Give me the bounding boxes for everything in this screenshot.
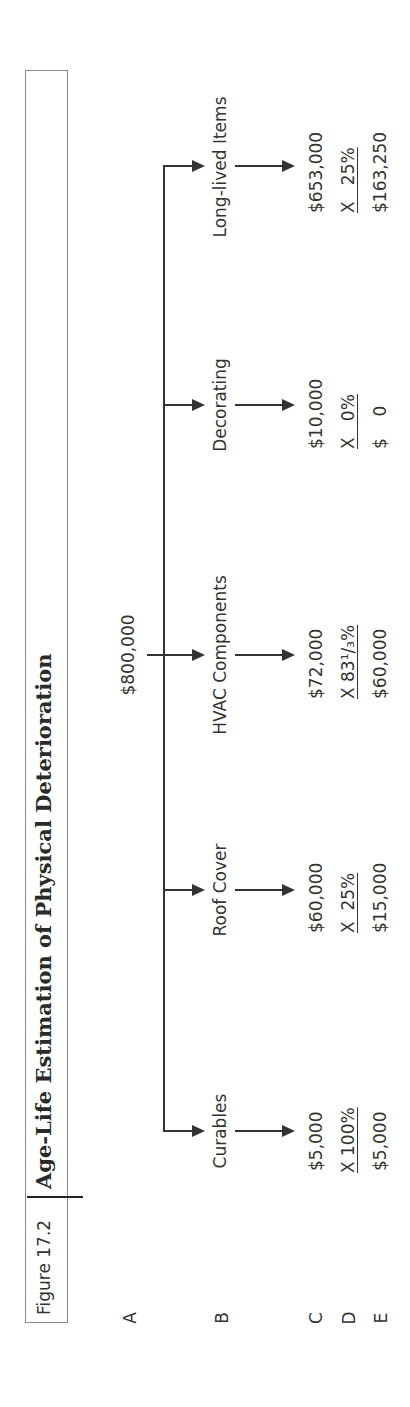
total-arrow-line — [147, 654, 193, 656]
value-line-roof — [235, 889, 283, 891]
component-label-curables: Curables — [210, 1094, 230, 1169]
arrow-down-icon — [192, 1125, 205, 1137]
row-letter-c: C — [306, 1308, 326, 1328]
branch-line-long-lived — [163, 165, 193, 167]
row-letter-a: A — [120, 1308, 140, 1328]
arrow-down-icon — [282, 884, 295, 896]
arrow-down-icon — [282, 160, 295, 172]
branch-line-roof — [163, 889, 193, 891]
cost-roof-cover: $60,000 — [306, 863, 326, 933]
arrow-down-icon — [192, 884, 205, 896]
value-line-hvac — [235, 654, 283, 656]
title-divider — [27, 1196, 83, 1198]
component-label-hvac: HVAC Components — [210, 575, 230, 734]
arrow-down-icon — [282, 649, 295, 661]
result-curables: $5,000 — [370, 1112, 390, 1171]
row-letter-e: E — [371, 1308, 391, 1328]
result-roof-cover: $15,000 — [370, 863, 390, 933]
value-line-curables — [235, 1130, 283, 1132]
arrow-down-icon — [192, 160, 205, 172]
value-line-decorating — [235, 404, 283, 406]
arrow-down-icon — [192, 399, 205, 411]
cost-long-lived: $653,000 — [306, 132, 326, 213]
total-value: $800,000 — [118, 614, 138, 695]
multiplier-decorating: X 0% — [338, 394, 358, 449]
row-letter-b: B — [212, 1308, 232, 1328]
component-label-decorating: Decorating — [210, 358, 230, 452]
multiplier-roof-cover: X 25% — [338, 873, 358, 933]
branch-line-curables — [163, 1130, 193, 1132]
cost-hvac: $72,000 — [306, 629, 326, 699]
age-life-diagram: Figure 17.2 Age-Life Estimation of Physi… — [0, 0, 410, 1407]
branch-bracket — [163, 165, 165, 1132]
result-decorating: $ 0 — [370, 406, 390, 449]
cost-curables: $5,000 — [306, 1112, 326, 1171]
branch-line-decorating — [163, 404, 193, 406]
component-label-long-lived: Long-lived Items — [210, 97, 230, 238]
row-letter-d: D — [339, 1308, 359, 1328]
arrow-down-icon — [192, 649, 205, 661]
result-hvac: $60,000 — [370, 629, 390, 699]
figure-label: Figure 17.2 — [34, 1220, 54, 1315]
arrow-down-icon — [282, 1125, 295, 1137]
multiplier-hvac: X 83¹/₃% — [338, 625, 358, 699]
arrow-down-icon — [282, 399, 295, 411]
result-long-lived: $163,250 — [370, 132, 390, 213]
component-label-roof-cover: Roof Cover — [210, 843, 230, 936]
cost-decorating: $10,000 — [306, 379, 326, 449]
figure-title: Age-Life Estimation of Physical Deterior… — [31, 654, 56, 1190]
value-line-long-lived — [235, 165, 283, 167]
multiplier-curables: X 100% — [338, 1107, 358, 1173]
multiplier-long-lived: X 25% — [338, 147, 358, 213]
